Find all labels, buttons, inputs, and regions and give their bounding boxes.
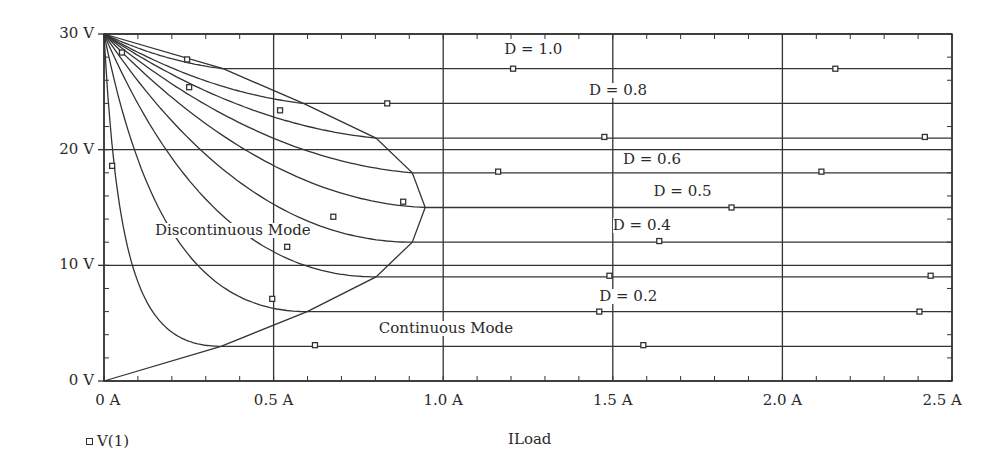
data-marker [270,296,275,301]
annotation-label: D = 1.0 [504,42,562,57]
data-marker [285,244,290,249]
data-marker [119,50,124,55]
data-marker [729,205,734,210]
data-marker [110,163,115,168]
annotation-label: D = 0.5 [654,184,712,199]
v1-markers [110,50,933,348]
x-tick-label: 1.0 A [423,393,462,408]
y-tick-label: 0 V [34,373,94,388]
data-marker [819,169,824,174]
mode-boundary-curve [104,34,425,381]
annotation-label: Continuous Mode [379,321,513,336]
y-tick-label: 30 V [34,26,94,41]
y-tick-label: 20 V [34,142,94,157]
annotation-label: D = 0.6 [623,152,681,167]
annotation-label: Discontinuous Mode [155,223,311,238]
data-marker [641,343,646,348]
x-tick-label: 2.0 A [763,393,802,408]
data-marker [496,169,501,174]
data-marker [511,66,516,71]
data-marker [607,273,612,278]
data-marker [917,309,922,314]
data-marker [185,57,190,62]
data-marker [187,85,192,90]
square-marker-icon [86,438,93,445]
data-marker [833,66,838,71]
legend: V(1) [86,432,129,450]
data-marker [331,214,336,219]
annotation-label: D = 0.2 [599,289,657,304]
boundary-polyline [104,34,425,381]
y-tick-label: 10 V [34,257,94,272]
x-tick-label: 0 A [95,393,120,408]
annotation-label: D = 0.8 [589,83,647,98]
x-tick-label: 1.5 A [593,393,632,408]
dcm-curve [104,34,425,208]
x-tick-label: 0.5 A [254,393,293,408]
data-marker [922,134,927,139]
chart-plot [0,0,1002,470]
dcm-curves [104,34,425,346]
data-marker [657,239,662,244]
dcm-curve [104,34,376,277]
data-marker [278,108,283,113]
x-tick-label: 2.5 A [922,393,961,408]
dcm-curve [104,34,221,346]
data-marker [385,101,390,106]
dcm-curve [104,34,412,242]
data-marker [312,343,317,348]
ccm-lines [221,69,952,347]
data-marker [597,309,602,314]
data-marker [928,273,933,278]
x-axis-title: ILoad [508,432,551,447]
legend-label: V(1) [97,432,129,450]
annotation-label: D = 0.4 [613,218,671,233]
data-marker [602,134,607,139]
data-marker [401,199,406,204]
